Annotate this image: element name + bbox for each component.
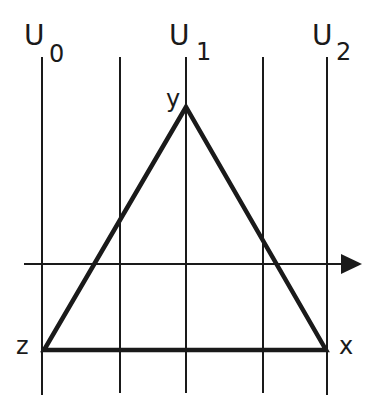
vertex-label-x: x [339, 334, 353, 358]
label-u2: U [312, 22, 333, 50]
axis-arrowhead-icon [341, 254, 362, 274]
vertex-label-y: y [166, 87, 180, 111]
label-u2-subscript: 2 [336, 40, 351, 64]
diagram: U 0 U 1 U 2 y z x [0, 0, 374, 411]
label-u1-subscript: 1 [196, 40, 211, 64]
label-u0-subscript: 0 [49, 42, 64, 66]
label-u1: U [169, 22, 190, 50]
label-u0: U [24, 22, 45, 50]
vertex-label-z: z [16, 334, 29, 358]
